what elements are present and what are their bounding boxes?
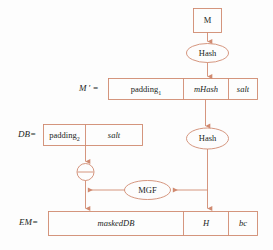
mgf-label: MGF xyxy=(125,186,170,195)
db-cell-padding2-subscript: 2 xyxy=(77,136,80,142)
message-label: M xyxy=(193,16,222,25)
em-row-label: EM= xyxy=(19,218,38,227)
db-cell-salt: salt xyxy=(86,131,142,140)
m-prime-cell-salt: salt xyxy=(229,85,257,94)
em-cell-bc: bc xyxy=(229,219,257,228)
m-prime-cell-padding1-subscript: 1 xyxy=(158,90,161,96)
hash-top-label: Hash xyxy=(187,49,228,58)
m-prime-cell-mhash: mHash xyxy=(184,85,228,94)
hash-bottom-label: Hash xyxy=(187,134,228,143)
db-row-label: DB= xyxy=(18,130,36,139)
pss-encoding-diagram: M Hash M ′ = padding1 mHash salt DB= pad… xyxy=(0,0,273,250)
m-prime-cell-padding1: padding1 xyxy=(109,85,183,96)
m-prime-row-label: M ′ = xyxy=(79,84,99,93)
db-cell-padding2-text: padding xyxy=(49,130,76,140)
m-prime-cell-padding1-text: padding xyxy=(131,84,158,94)
em-cell-maskeddb: maskedDB xyxy=(49,219,183,228)
diagram-vector-layer xyxy=(0,0,273,250)
em-cell-h: H xyxy=(184,219,228,228)
db-cell-padding2: padding2 xyxy=(44,131,85,142)
